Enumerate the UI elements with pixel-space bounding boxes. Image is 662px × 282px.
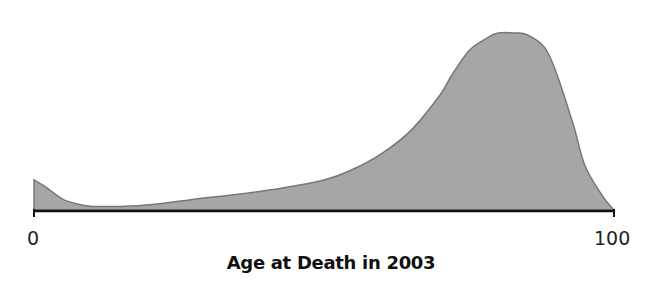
density-chart	[0, 0, 662, 282]
x-axis-title: Age at Death in 2003	[0, 252, 662, 273]
density-area	[34, 33, 614, 210]
x-tick-label-max: 100	[594, 227, 630, 249]
x-tick-label-min: 0	[27, 227, 39, 249]
